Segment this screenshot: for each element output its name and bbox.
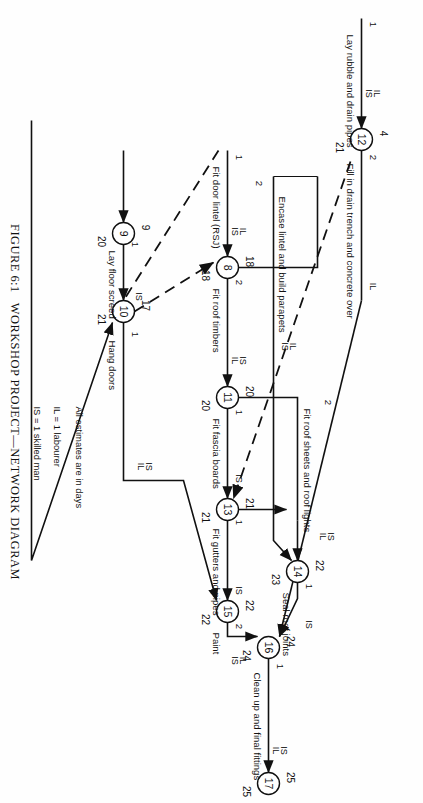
activity-label-fit-lintel: Fit door lintel (RSJ) xyxy=(210,166,221,248)
legend-line-3: IS = 1 skilled man xyxy=(31,406,42,480)
activity-res2-paint: IS xyxy=(229,656,239,665)
activity-label-fit-roof-sheets: Fit roof sheets and roof lights xyxy=(301,408,312,532)
node-11-early: 20 xyxy=(243,385,254,397)
activity-label-lay-rubble: Lay rubble and drain pipes xyxy=(344,34,355,147)
node-12-label: 12 xyxy=(355,133,367,145)
node-11-label: 11 xyxy=(221,392,233,403)
node-12-early: 4 xyxy=(377,130,388,136)
activity-label-fill-drain: Fill in drain trench and concrete over xyxy=(344,163,355,319)
activity-duration-hang-doors: 1 xyxy=(129,331,140,336)
node-10-label: 10 xyxy=(117,305,129,317)
node-15-early: 22 xyxy=(243,599,254,611)
node-8-early: 18 xyxy=(243,255,254,267)
node-9-label: 9 xyxy=(117,230,129,236)
activity-res2-fit-lintel: IS xyxy=(229,227,239,236)
node-15-label: 15 xyxy=(221,605,233,617)
activity-res2-hang-doors: IL xyxy=(135,462,145,470)
activity-label-lay-floor-screed: Lay floor screed xyxy=(106,250,117,318)
edge-10-to-15-hang xyxy=(123,322,216,600)
node-9-late: 20 xyxy=(95,235,106,247)
activity-duration-fill-drain: 2 xyxy=(367,154,378,159)
activity-duration-paint: 2 xyxy=(233,623,244,628)
activity-duration-fit-roof-timbers: 2 xyxy=(233,279,244,284)
figure-number: FIGURE 6:1 xyxy=(7,224,21,293)
activity-duration-seal-roof-joints: 1 xyxy=(303,583,314,588)
node-9-early: 9 xyxy=(139,224,150,230)
activity-label-hang-doors: Hang doors xyxy=(106,340,117,390)
edge-bottom-to-10 xyxy=(31,120,112,560)
activity-res1-seal-roof-joints: IS xyxy=(303,620,313,629)
activity-duration-fit-gutters: 1 xyxy=(233,519,244,524)
activity-res2-encase-lintel: IL xyxy=(287,342,297,350)
activity-res2-fit-roof-sheets: IL xyxy=(317,532,327,540)
activity-res2-lay-rubble: IS xyxy=(363,89,373,98)
activity-duration-fit-roof-sheets: 2 xyxy=(322,399,333,404)
node-13-label: 13 xyxy=(221,503,233,515)
node-8-late: 18 xyxy=(199,269,210,281)
node-14-late: 23 xyxy=(269,573,280,585)
node-10-early: 17 xyxy=(139,299,150,311)
activity-label-paint: Paint xyxy=(210,632,221,654)
node-14-label: 14 xyxy=(291,565,303,577)
node-13-late: 21 xyxy=(199,511,210,523)
figure-title: WORKSHOP PROJECT—NETWORK DIAGRAM xyxy=(7,302,21,579)
node-12-late: 21 xyxy=(333,141,344,153)
activity-label-fit-gutters: Fit gutters and pipes xyxy=(210,528,221,615)
node-8-label: 8 xyxy=(221,264,233,270)
activity-res1-lay-floor-screed: IS xyxy=(133,292,143,301)
dummy-12-to-13 xyxy=(233,161,350,498)
node-10-late: 21 xyxy=(95,313,106,325)
activity-duration-lay-rubble: 1 xyxy=(367,21,378,26)
activity-label-clean-up: Clean up and final fittings xyxy=(251,672,262,780)
activity-label-fit-roof-timbers: Fit roof timbers xyxy=(210,288,221,352)
network-diagram-plate: 12 4 21 8 18 18 9 9 20 10 17 21 11 20 20 xyxy=(0,0,423,803)
node-14-early: 22 xyxy=(313,559,324,571)
activity-res1-fit-gutters: IS xyxy=(233,586,243,595)
figure-caption: FIGURE 6:1WORKSHOP PROJECT—NETWORK DIAGR… xyxy=(6,0,24,803)
activity-duration-fit-fascia: 1 xyxy=(233,409,244,414)
node-13-early: 21 xyxy=(243,497,254,509)
activity-label-seal-roof-joints: Seal roof joints xyxy=(280,592,291,656)
activity-res1-fit-fascia: IS xyxy=(233,474,243,483)
activity-label-fit-fascia: Fit fascia boards xyxy=(210,418,221,489)
activity-res2-fit-roof-timbers: IL xyxy=(229,356,239,364)
edge-fill-to-16 xyxy=(279,300,361,636)
activity-duration-lay-floor-screed: 1 xyxy=(129,241,140,246)
node-16-label: 16 xyxy=(262,641,274,653)
activity-res1-fill-drain: IL xyxy=(367,282,377,290)
activity-duration-encase-lintel: 2 xyxy=(253,180,264,185)
figure-page: 12 4 21 8 18 18 9 9 20 10 17 21 11 20 20 xyxy=(0,0,423,803)
node-17-late: 25 xyxy=(240,785,251,797)
node-11-late: 20 xyxy=(199,399,210,411)
network-diagram-svg: 12 4 21 8 18 18 9 9 20 10 17 21 11 20 20 xyxy=(0,0,423,803)
activity-duration-clean-up: 1 xyxy=(274,663,285,668)
node-15-late: 22 xyxy=(199,613,210,625)
activity-res2-clean-up: IL xyxy=(270,746,280,754)
activity-duration-fit-lintel: 1 xyxy=(233,154,244,159)
activity-label-encase-lintel: Encase lintel and build parapets xyxy=(276,196,287,332)
node-17-label: 17 xyxy=(262,777,274,789)
node-17-early: 25 xyxy=(284,771,295,783)
legend-line-2: IL = 1 labourer xyxy=(51,406,62,466)
legend-line-1: All estimates are in days xyxy=(73,406,84,508)
